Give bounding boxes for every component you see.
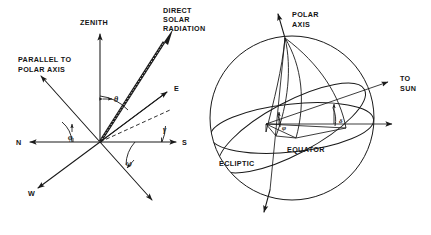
ecliptic-ellipse [207, 67, 376, 190]
polar-axis-line-bottom [264, 190, 270, 212]
polar-axis-label-line2: AXIS [292, 20, 310, 29]
east-ray-duplicate [100, 92, 167, 142]
right-diagram-group [207, 14, 392, 212]
solar-geometry-figure: ZENITH DIRECT SOLAR RADIATION PARALLEL T… [0, 0, 431, 235]
to-sun-label-line2: SUN [400, 84, 416, 93]
ecliptic-label: ECLIPTIC [219, 159, 255, 168]
polar-axis-line-top [278, 14, 285, 38]
radial-line-center-4 [266, 124, 346, 128]
east-label: E [174, 84, 179, 93]
direct-solar-radiation-label-line2: SOLAR [163, 15, 190, 24]
wedge-chord-1 [296, 128, 346, 138]
theta-angle-label: θ [114, 95, 119, 104]
parallel-polar-axis-label-line1: PARALLEL TO [18, 55, 71, 64]
equator-group [207, 67, 376, 190]
phi-angle-label-left: φ [68, 133, 73, 142]
north-label: N [16, 138, 22, 147]
celestial-sphere-outline [210, 36, 374, 200]
west-label: W [28, 189, 35, 198]
to-sun-label-line1: TO [400, 74, 411, 83]
gamma-angle-label: γ [163, 125, 167, 134]
omega-angle-label: ω [126, 159, 132, 168]
equator-label: EQUATOR [287, 145, 325, 154]
meridian-arc-2 [276, 38, 288, 136]
south-label: S [182, 138, 187, 147]
zenith-label: ZENITH [80, 18, 108, 27]
radial-line-center-1 [266, 124, 296, 138]
radial-line-center-2 [266, 124, 276, 136]
delta-angle-label: δ [339, 117, 343, 125]
phi-angle-label-right: φ [282, 124, 286, 132]
direct-solar-radiation-label-line3: RADIATION [163, 24, 206, 33]
polar-axis-label-line1: POLAR [292, 10, 319, 19]
polar-axis-opposite-line [100, 142, 152, 200]
west-axis-line [38, 142, 100, 188]
parallel-polar-axis-label-line2: POLAR AXIS [18, 65, 65, 74]
figure-canvas: ZENITH DIRECT SOLAR RADIATION PARALLEL T… [0, 0, 431, 235]
direct-solar-radiation-label-line1: DIRECT [163, 6, 192, 15]
